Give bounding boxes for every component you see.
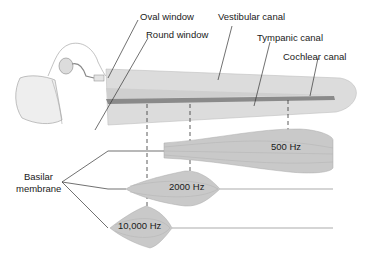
cochlea-diagram: Oval window Round window Vestibular cana… bbox=[0, 0, 365, 259]
basilar-label-line2: membrane bbox=[16, 183, 61, 194]
membrane-500hz bbox=[164, 129, 333, 173]
round-window-label: Round window bbox=[146, 29, 208, 40]
membrane-2000hz bbox=[126, 171, 333, 206]
oval-window-label: Oval window bbox=[140, 11, 194, 22]
cochlear-canal-label: Cochlear canal bbox=[283, 51, 346, 62]
freq-10000-label: 10,000 Hz bbox=[118, 220, 162, 231]
freq-500-label: 500 Hz bbox=[271, 141, 301, 152]
basilar-label-line1: Basilar bbox=[24, 171, 53, 182]
cochlea bbox=[106, 69, 356, 125]
vestibular-canal-label: Vestibular canal bbox=[218, 11, 285, 22]
tympanic-canal-label: Tympanic canal bbox=[257, 32, 323, 43]
freq-2000-label: 2000 Hz bbox=[169, 181, 205, 192]
middle-ear-illustration bbox=[16, 43, 106, 124]
